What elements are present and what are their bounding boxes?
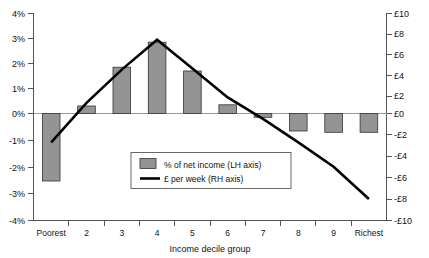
x-axis-ticks bbox=[69, 221, 351, 227]
chart-canvas: 4% 3% 2% 1% 0% -1% -2% -3% -4% £10 £8 bbox=[0, 0, 429, 258]
x-category-label: 3 bbox=[119, 228, 124, 238]
x-category-label: 6 bbox=[225, 228, 230, 238]
left-tick-label: 2% bbox=[12, 59, 25, 69]
bar-poorest bbox=[42, 114, 60, 182]
right-tick-label: £2 bbox=[394, 91, 404, 101]
x-category-label: 5 bbox=[190, 228, 195, 238]
x-category-label: 4 bbox=[155, 228, 160, 238]
bar-decile-5 bbox=[184, 71, 202, 114]
bar-decile-8 bbox=[290, 114, 308, 132]
legend-swatch-bars bbox=[140, 159, 156, 169]
left-axis-tick-labels: 4% 3% 2% 1% 0% -1% -2% -3% -4% bbox=[9, 9, 25, 226]
right-tick-label: -£10 bbox=[394, 216, 412, 226]
left-tick-label: -1% bbox=[9, 136, 25, 146]
left-axis-ticks bbox=[28, 14, 34, 221]
right-tick-label: £4 bbox=[394, 71, 404, 81]
x-category-label: 8 bbox=[296, 228, 301, 238]
right-tick-label: -£6 bbox=[394, 173, 407, 183]
left-tick-label: 1% bbox=[12, 84, 25, 94]
right-tick-label: -£8 bbox=[394, 194, 407, 204]
legend-label-line: £ per week (RH axis) bbox=[164, 174, 244, 184]
right-axis-ticks bbox=[387, 14, 393, 221]
right-tick-label: £6 bbox=[394, 50, 404, 60]
right-tick-label: -£2 bbox=[394, 130, 407, 140]
left-tick-label: 4% bbox=[12, 9, 25, 19]
left-tick-label: -2% bbox=[9, 163, 25, 173]
right-tick-label: £0 bbox=[394, 109, 404, 119]
chart-container: 4% 3% 2% 1% 0% -1% -2% -3% -4% £10 £8 bbox=[0, 0, 429, 258]
right-tick-label: -£4 bbox=[394, 151, 407, 161]
left-tick-label: -4% bbox=[9, 216, 25, 226]
bar-richest bbox=[360, 114, 378, 133]
legend: % of net income (LH axis) £ per week (RH… bbox=[131, 153, 291, 189]
bar-decile-6 bbox=[219, 105, 237, 114]
bar-decile-9 bbox=[325, 114, 343, 133]
x-category-label: 7 bbox=[261, 228, 266, 238]
x-axis-title: Income decile group bbox=[169, 244, 250, 254]
right-tick-label: £10 bbox=[394, 9, 409, 19]
bar-decile-4 bbox=[148, 42, 166, 113]
legend-label-bars: % of net income (LH axis) bbox=[164, 160, 261, 170]
left-tick-label: 0% bbox=[12, 109, 25, 119]
x-axis-category-labels: Poorest 2 3 4 5 6 7 8 9 Richest bbox=[37, 228, 384, 238]
right-axis-tick-labels: £10 £8 £6 £4 £2 £0 -£2 -£4 -£6 -£8 -£10 bbox=[394, 9, 412, 226]
x-category-label: Poorest bbox=[37, 228, 67, 238]
x-category-label: Richest bbox=[355, 228, 384, 238]
left-tick-label: -3% bbox=[9, 189, 25, 199]
x-category-label: 2 bbox=[84, 228, 89, 238]
right-tick-label: £8 bbox=[394, 29, 404, 39]
x-category-label: 9 bbox=[331, 228, 336, 238]
left-tick-label: 3% bbox=[12, 34, 25, 44]
